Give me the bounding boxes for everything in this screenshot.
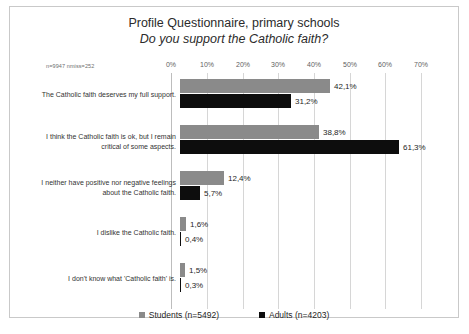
bar-students[interactable] <box>180 171 224 185</box>
bar-adults[interactable] <box>180 94 291 108</box>
legend-label-students: Students (n=5492) <box>149 310 219 320</box>
bar-value-students: 42,1% <box>330 82 357 91</box>
bar-value-adults: 31,2% <box>291 97 318 106</box>
legend-swatch-icon-students <box>139 312 145 318</box>
x-tick-20: 20% <box>236 61 250 68</box>
x-tick-0: 0% <box>166 61 176 68</box>
x-tick-40: 40% <box>307 61 321 68</box>
x-tick-50: 50% <box>343 61 357 68</box>
chart-legend: Students (n=5492) Adults (n=4203) <box>10 310 458 320</box>
chart-frame: Profile Questionnaire, primary schools D… <box>9 6 459 318</box>
bar-value-adults: 61,3% <box>399 143 426 152</box>
bar-students[interactable] <box>180 79 330 93</box>
bar-group: I neither have positive nor negative fee… <box>10 169 458 205</box>
legend-item-students[interactable]: Students (n=5492) <box>139 310 219 320</box>
bar-value-adults: 0,3% <box>181 281 203 290</box>
bar-group: I think the Catholic faith is ok, but I … <box>10 123 458 159</box>
bar-group: I don't know what 'Catholic faith' is. 1… <box>10 261 458 297</box>
x-axis-tick-labels: 0% 10% 20% 30% 40% 50% 60% 70% <box>10 61 458 73</box>
bar-students[interactable] <box>180 125 319 139</box>
plot-area: 0% 10% 20% 30% 40% 50% 60% 70% The Catho… <box>10 7 458 317</box>
legend-label-adults: Adults (n=4203) <box>269 310 329 320</box>
bar-value-students: 38,8% <box>319 128 346 137</box>
bar-value-adults: 5,7% <box>200 189 222 198</box>
bar-value-students: 1,5% <box>185 266 207 275</box>
bar-adults[interactable] <box>180 186 200 200</box>
category-label: The Catholic faith deserves my full supp… <box>31 90 176 100</box>
legend-item-adults[interactable]: Adults (n=4203) <box>259 310 329 320</box>
category-label: I neither have positive nor negative fee… <box>31 178 176 197</box>
bar-group: The Catholic faith deserves my full supp… <box>10 77 458 113</box>
x-tick-10: 10% <box>200 61 214 68</box>
x-tick-60: 60% <box>378 61 392 68</box>
bars-area: The Catholic faith deserves my full supp… <box>10 73 458 309</box>
bar-value-adults: 0,4% <box>181 235 203 244</box>
bar-group: I dislike the Catholic faith. 1,6% 0,4% <box>10 215 458 251</box>
category-label: I don't know what 'Catholic faith' is. <box>31 274 176 284</box>
x-tick-70: 70% <box>414 61 428 68</box>
x-tick-30: 30% <box>271 61 285 68</box>
category-label: I think the Catholic faith is ok, but I … <box>31 132 176 151</box>
bar-value-students: 1,6% <box>186 220 208 229</box>
bar-value-students: 12,4% <box>224 174 251 183</box>
bar-adults[interactable] <box>180 140 399 154</box>
category-label: I dislike the Catholic faith. <box>31 228 176 238</box>
legend-swatch-icon-adults <box>259 312 265 318</box>
